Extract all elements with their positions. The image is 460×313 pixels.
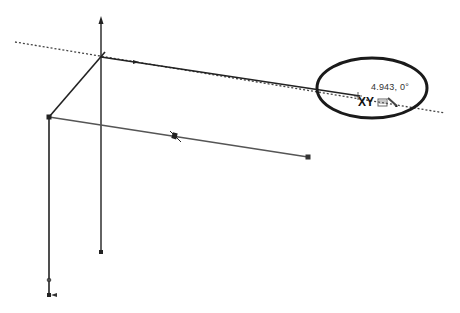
middle-line[interactable] xyxy=(49,117,308,157)
direction-arrow-icon xyxy=(133,60,139,64)
diagonal-line[interactable] xyxy=(49,52,105,117)
dimension-value: 4.943, 0° xyxy=(371,82,409,92)
endpoint[interactable] xyxy=(306,155,311,160)
plane-label: XY xyxy=(358,95,374,109)
sketch-relation-icon xyxy=(377,96,399,108)
sketch-viewport[interactable] xyxy=(0,0,460,313)
origin-arrow-icon xyxy=(51,293,57,297)
endpoint[interactable] xyxy=(47,115,52,120)
endpoint[interactable] xyxy=(99,250,103,254)
axis-arrow-icon xyxy=(99,16,104,24)
endpoint[interactable] xyxy=(47,293,51,297)
